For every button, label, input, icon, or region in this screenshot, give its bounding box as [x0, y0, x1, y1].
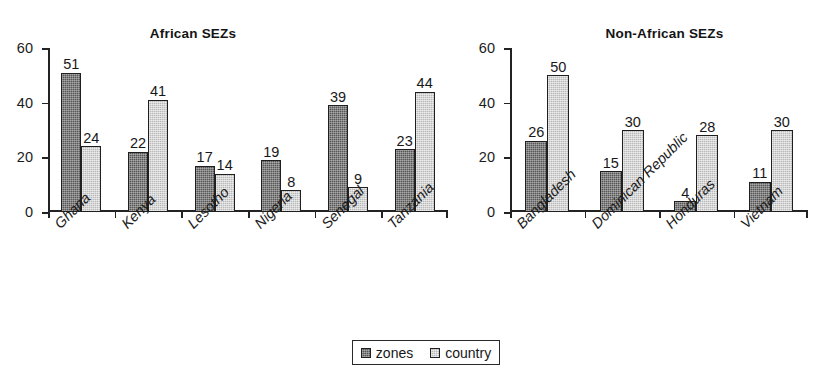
plot-area-nonafrican: 02040602650Bangladesh1530Dominican Repub…	[510, 48, 808, 212]
y-axis-tick: 20	[504, 157, 510, 159]
y-axis-tick: 40	[504, 103, 510, 105]
y-axis-tick: 20	[42, 157, 48, 159]
bar-value-label: 24	[83, 131, 99, 146]
bar-value-label: 14	[217, 158, 233, 173]
bar-value-label: 22	[130, 136, 146, 151]
bar-value-label: 11	[752, 166, 767, 181]
y-axis-tick-label: 40	[479, 95, 495, 110]
x-axis-tick	[381, 212, 383, 218]
chart-title-nonafrican: Non-African SEZs	[480, 26, 831, 41]
chart-title-african: African SEZs	[0, 26, 428, 41]
bar-group: 198	[261, 48, 301, 212]
bar-value-label: 30	[774, 115, 790, 130]
bar-group: 5124	[61, 48, 101, 212]
bar-value-label: 44	[417, 76, 433, 91]
x-axis-tick	[48, 212, 50, 218]
bar-value-label: 51	[63, 57, 79, 72]
bar-value-label: 28	[699, 120, 715, 135]
legend-swatch-zones	[361, 348, 371, 358]
bar-group: 1714	[195, 48, 235, 212]
bar-value-label: 50	[550, 60, 566, 75]
bar-value-label: 26	[528, 125, 544, 140]
x-axis-tick	[585, 212, 587, 218]
bar-value-label: 23	[397, 134, 413, 149]
bar-value-label: 39	[330, 90, 346, 105]
bar-zones: 51	[61, 73, 81, 212]
bar-value-label: 19	[263, 145, 279, 160]
y-axis-tick-label: 40	[17, 95, 33, 110]
x-axis-tick	[446, 212, 448, 218]
legend-label-country: country	[445, 346, 491, 360]
x-axis-tick	[248, 212, 250, 218]
chart-panel-african: African SEZs 02040605124Ghana2241Kenya17…	[0, 0, 470, 330]
x-axis-tick	[181, 212, 183, 218]
x-axis-tick	[510, 212, 512, 218]
y-axis-tick-label: 60	[479, 41, 495, 56]
x-axis-tick	[659, 212, 661, 218]
bar-value-label: 41	[150, 84, 166, 99]
bar-value-label: 15	[603, 156, 619, 171]
y-axis-line	[48, 48, 50, 212]
chart-panel-nonafrican: Non-African SEZs 02040602650Bangladesh15…	[462, 0, 831, 330]
y-axis-tick: 60	[504, 48, 510, 50]
y-axis-tick-label: 0	[25, 205, 33, 220]
y-axis-tick-label: 60	[17, 41, 33, 56]
bar-value-label: 17	[197, 150, 213, 165]
y-axis-tick: 60	[42, 48, 48, 50]
x-axis-tick	[806, 212, 808, 218]
y-axis-tick: 40	[42, 103, 48, 105]
x-axis-tick	[734, 212, 736, 218]
legend-entry-zones: zones	[361, 346, 413, 360]
bar-value-label: 8	[287, 175, 295, 190]
y-axis-tick-label: 0	[487, 205, 495, 220]
x-axis-tick	[315, 212, 317, 218]
bar-group: 399	[328, 48, 368, 212]
legend-entry-country: country	[430, 346, 491, 360]
legend-label-zones: zones	[376, 346, 413, 360]
chart-legend: zones country	[352, 340, 500, 365]
legend-swatch-country	[430, 348, 440, 358]
y-axis-tick-label: 20	[479, 150, 495, 165]
bar-group: 2241	[128, 48, 168, 212]
y-axis-tick-label: 20	[17, 150, 33, 165]
y-axis-line	[510, 48, 512, 212]
plot-area-african: 02040605124Ghana2241Kenya1714Lesotho198N…	[48, 48, 448, 212]
bar-value-label: 30	[625, 115, 641, 130]
x-axis-tick	[115, 212, 117, 218]
